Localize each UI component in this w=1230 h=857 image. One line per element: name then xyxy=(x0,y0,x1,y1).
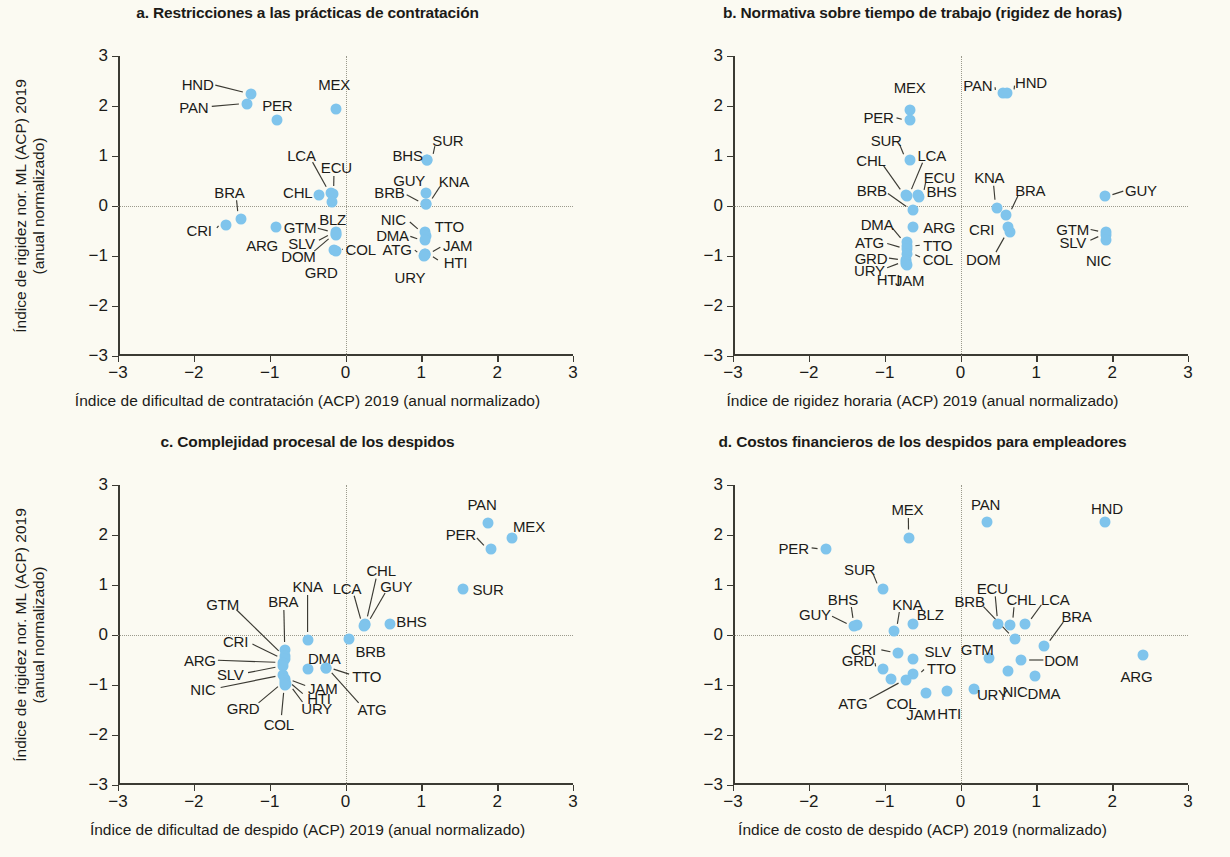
x-tick xyxy=(270,356,271,362)
data-point xyxy=(1101,235,1112,246)
y-tick-label: −2 xyxy=(704,725,723,745)
x-tick xyxy=(885,356,886,362)
data-point xyxy=(235,213,246,224)
data-point xyxy=(908,654,919,665)
panel-c: c. Complejidad procesal de los despidos−… xyxy=(0,429,615,857)
y-tick-label: −1 xyxy=(704,246,723,266)
panel-d: d. Costos financieros de los despidos pa… xyxy=(615,429,1230,857)
point-label: DOM xyxy=(1044,652,1078,669)
data-point xyxy=(1001,210,1012,221)
point-label: JAM xyxy=(895,272,924,289)
point-label: BHS xyxy=(396,613,426,630)
data-point xyxy=(1019,619,1030,630)
point-label: ATG xyxy=(383,240,412,257)
x-tick xyxy=(961,785,962,791)
point-label: HND xyxy=(182,75,214,92)
y-axis-title-line-2: (anual normalizado) xyxy=(30,56,48,356)
x-tick-label: −2 xyxy=(799,792,818,812)
point-label: LCA xyxy=(333,579,362,596)
plot-area-b: −3−2−10123−3−2−10123PANHNDMEXPERSURLCACH… xyxy=(733,56,1188,356)
y-tick-label: 3 xyxy=(99,46,108,66)
y-axis-title-c: Índice de rigidez nor. ML (ACP) 2019(anu… xyxy=(12,485,48,785)
y-tick-label: 3 xyxy=(714,46,723,66)
y-tick xyxy=(112,685,118,686)
point-label: BRB xyxy=(374,184,404,201)
y-tick xyxy=(727,156,733,157)
x-tick xyxy=(194,356,195,362)
panel-title-d: d. Costos financieros de los despidos pa… xyxy=(615,433,1230,451)
x-tick xyxy=(885,785,886,791)
zero-line-vertical xyxy=(961,485,962,785)
point-label: CHL xyxy=(1006,591,1035,608)
y-tick xyxy=(727,585,733,586)
point-label: SLV xyxy=(924,643,951,660)
data-point xyxy=(900,675,911,686)
point-label: BRB xyxy=(954,593,984,610)
point-label: BRB xyxy=(857,181,887,198)
y-tick-label: 2 xyxy=(714,96,723,116)
point-label: BHS xyxy=(828,591,858,608)
x-tick-label: −1 xyxy=(875,363,894,383)
x-axis-title-d: Índice de costo de despido (ACP) 2019 (n… xyxy=(615,821,1230,839)
point-label: PAN xyxy=(467,496,496,513)
point-label: JAM xyxy=(906,706,935,723)
point-label: BLZ xyxy=(917,605,944,622)
data-point xyxy=(279,680,290,691)
x-tick xyxy=(421,356,422,362)
y-tick xyxy=(112,106,118,107)
y-tick-label: −3 xyxy=(89,775,108,795)
x-tick xyxy=(1112,356,1113,362)
data-point xyxy=(982,516,993,527)
x-tick-label: 2 xyxy=(492,363,501,383)
point-label: COL xyxy=(923,250,953,267)
data-point xyxy=(849,621,860,632)
point-label: NIC xyxy=(190,681,215,698)
y-tick-label: 1 xyxy=(99,146,108,166)
point-label: LCA xyxy=(1041,591,1070,608)
x-tick xyxy=(270,785,271,791)
data-point xyxy=(326,196,337,207)
y-tick-label: −3 xyxy=(704,346,723,366)
data-point xyxy=(320,662,331,673)
y-tick xyxy=(727,735,733,736)
point-label: BHS xyxy=(926,183,956,200)
y-tick xyxy=(727,485,733,486)
data-point xyxy=(908,222,919,233)
point-label: KNA xyxy=(974,169,1004,186)
data-point xyxy=(1002,666,1013,677)
x-tick-label: 1 xyxy=(1032,363,1041,383)
point-label: KNA xyxy=(439,173,469,190)
x-tick-label: 1 xyxy=(417,792,426,812)
x-tick xyxy=(1112,785,1113,791)
x-tick xyxy=(733,356,734,362)
point-label: CHL xyxy=(283,184,312,201)
x-tick-label: −1 xyxy=(260,792,279,812)
x-tick-label: 2 xyxy=(1107,363,1116,383)
point-label: BRA xyxy=(1015,181,1045,198)
data-point xyxy=(1001,87,1012,98)
point-label: ECU xyxy=(321,159,352,176)
point-label: DOM xyxy=(966,250,1000,267)
point-label: CHL xyxy=(856,151,885,168)
x-tick xyxy=(961,356,962,362)
x-tick xyxy=(346,785,347,791)
y-tick xyxy=(112,585,118,586)
y-tick-label: −1 xyxy=(89,675,108,695)
y-axis-title-line-2: (anual normalizado) xyxy=(30,485,48,785)
data-point xyxy=(420,187,431,198)
x-tick-label: −1 xyxy=(875,792,894,812)
point-label: SUR xyxy=(432,132,463,149)
data-point xyxy=(486,544,497,555)
data-point xyxy=(1137,650,1148,661)
point-label: PER xyxy=(262,97,292,114)
data-point xyxy=(1010,633,1021,644)
point-label: MEX xyxy=(513,518,545,535)
x-tick-label: 3 xyxy=(568,792,577,812)
x-tick xyxy=(497,356,498,362)
y-tick xyxy=(727,206,733,207)
data-point xyxy=(1004,620,1015,631)
y-tick-label: 1 xyxy=(714,146,723,166)
plot-area-a: −3−2−10123−3−2−10123HNDPANPERMEXSURBHSGU… xyxy=(118,56,573,356)
point-label: GTM xyxy=(206,596,239,613)
data-point xyxy=(422,154,433,165)
